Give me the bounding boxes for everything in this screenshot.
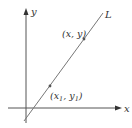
x-axis bbox=[8, 106, 122, 111]
point-x1-y1-label: (x1, y1) bbox=[50, 90, 83, 103]
y-axis bbox=[24, 8, 29, 123]
line-label: L bbox=[104, 9, 112, 20]
x-axis-arrow-icon bbox=[115, 106, 122, 111]
point-x1-y1 bbox=[49, 85, 52, 88]
y-axis-arrow-icon bbox=[24, 8, 29, 15]
x-axis-label: x bbox=[124, 103, 130, 114]
y-axis-label: y bbox=[30, 6, 37, 17]
point-x-y-label: (x, y) bbox=[62, 28, 86, 39]
line-diagram: y x L (x, y) (x1, y1) bbox=[0, 0, 132, 128]
